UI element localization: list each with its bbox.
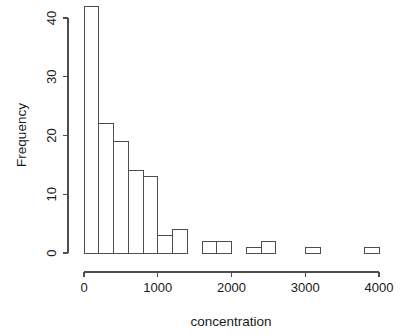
y-axis-tick-label: 30 xyxy=(44,70,59,84)
x-axis-tick-label: 3000 xyxy=(291,280,320,295)
x-axis-tick-label: 1000 xyxy=(143,280,172,295)
histogram-bar xyxy=(364,247,379,253)
histogram-bar xyxy=(173,230,188,254)
histogram-bar xyxy=(246,247,261,253)
histogram-bar xyxy=(99,124,114,253)
histogram-bar xyxy=(128,171,143,253)
histogram-bar xyxy=(143,177,158,253)
histogram-bar xyxy=(114,141,129,253)
histogram-bar xyxy=(158,235,173,253)
x-axis-tick-label: 0 xyxy=(80,280,87,295)
histogram-bar xyxy=(217,241,232,253)
y-axis-tick-label: 40 xyxy=(44,11,59,25)
histogram-bar xyxy=(261,241,276,253)
y-axis-tick-label: 20 xyxy=(44,128,59,142)
histogram-bar xyxy=(202,241,217,253)
y-axis-tick-label: 0 xyxy=(44,249,59,256)
y-axis-tick-label: 10 xyxy=(44,187,59,201)
concentration-axis: 01000200030004000 xyxy=(80,272,393,295)
x-axis-title: concentration xyxy=(190,314,271,329)
histogram-plot-area: 010203040Frequency01000200030004000conce… xyxy=(0,0,401,336)
histogram-bar xyxy=(305,247,320,253)
x-axis-tick-label: 4000 xyxy=(365,280,394,295)
histogram-bars xyxy=(84,6,379,253)
histogram-figure: 010203040Frequency01000200030004000conce… xyxy=(0,0,401,336)
histogram-bar xyxy=(84,6,99,253)
frequency-axis: 010203040 xyxy=(44,11,68,257)
y-axis-title: Frequency xyxy=(14,103,29,167)
x-axis-tick-label: 2000 xyxy=(217,280,246,295)
